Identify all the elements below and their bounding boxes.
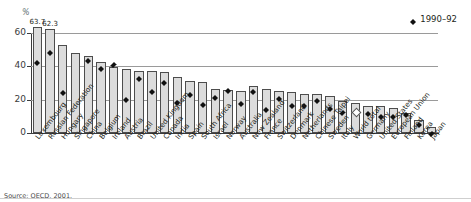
chart-legend: 1990–92: [410, 14, 457, 24]
chart-container: % 1990–92 0204060 63.762.3 LuxembourgRus…: [0, 0, 471, 202]
y-axis-tick-label: 60: [4, 28, 26, 37]
bar: [33, 27, 42, 133]
bar-value-label: 62.3: [42, 20, 58, 28]
y-axis-tick-mark: [27, 133, 31, 134]
bottom-divider: [0, 198, 471, 199]
y-axis-unit-label: %: [22, 8, 30, 17]
diamond-marker-icon: [60, 87, 66, 93]
diamond-marker-icon: [136, 73, 142, 79]
diamond-marker-icon: [250, 86, 256, 92]
diamond-marker-icon: [111, 59, 117, 65]
y-axis-tick-label: 40: [4, 61, 26, 70]
diamond-marker-icon: [238, 98, 244, 104]
diamond-marker-icon: [263, 104, 269, 110]
diamond-marker-icon: [212, 92, 218, 98]
diamond-marker-icon: [47, 47, 53, 53]
diamond-marker-icon: [85, 55, 91, 61]
diamond-marker-icon: [34, 57, 40, 63]
diamond-marker-icon: [289, 100, 295, 106]
legend-label: 1990–92: [420, 14, 457, 24]
diamond-marker-icon: [314, 95, 320, 101]
y-axis-tick-label: 20: [4, 95, 26, 104]
diamond-marker-icon: [161, 77, 167, 83]
diamond-marker-icon: [410, 16, 416, 22]
diamond-marker-icon: [123, 94, 129, 100]
diamond-marker-icon: [200, 99, 206, 105]
diamond-marker-icon: [98, 63, 104, 69]
diamond-marker-icon: [149, 86, 155, 92]
diamond-marker-icon: [225, 85, 231, 91]
y-axis-tick-label: 0: [4, 128, 26, 137]
